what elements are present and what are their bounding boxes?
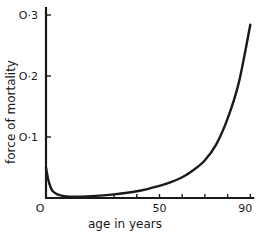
x-tick-label: O [36,202,45,215]
y-axis-label: force of mortality [4,60,18,164]
x-tick-label: 50 [153,202,167,215]
y-tick-label: O·3 [19,9,38,22]
tick-labels: O·1O·2O·3O5090 [19,9,252,215]
x-axis-label: age in years [88,217,162,231]
y-tick-label: O·2 [19,70,38,83]
y-tick-label: O·1 [19,131,38,144]
mortality-chart: O·1O·2O·3O5090 age in years force of mor… [0,0,262,246]
x-tick-label: 90 [238,202,252,215]
axes [45,7,254,198]
ticks [46,15,250,198]
mortality-curve [46,25,250,197]
